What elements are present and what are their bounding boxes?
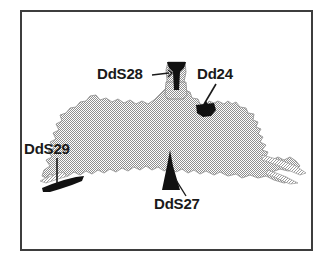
site-label-dds28: DdS28 bbox=[97, 66, 143, 81]
figure-border-frame bbox=[20, 10, 313, 251]
site-label-dds27: DdS27 bbox=[154, 196, 200, 211]
site-label-dd24: Dd24 bbox=[197, 66, 233, 81]
figure-root: DdS28 Dd24 DdS29 DdS27 bbox=[0, 0, 332, 265]
site-label-dds29: DdS29 bbox=[24, 141, 70, 156]
